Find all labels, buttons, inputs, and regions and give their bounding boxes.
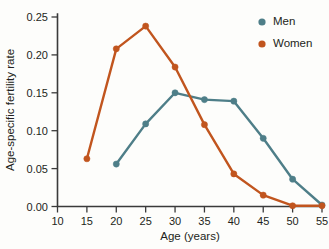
data-point-women-20 xyxy=(113,46,119,52)
data-point-men-45 xyxy=(260,135,266,141)
data-point-women-45 xyxy=(260,192,266,198)
legend-marker-women xyxy=(258,40,265,47)
data-point-women-15 xyxy=(84,156,90,162)
y-axis-ticks: 0.000.050.100.150.200.25 xyxy=(27,11,58,213)
y-axis-title: Age-specific fertility rate xyxy=(4,49,16,171)
data-point-men-25 xyxy=(143,121,149,127)
x-tick-label: 15 xyxy=(81,215,93,227)
y-tick-label: 0.20 xyxy=(27,49,48,61)
data-point-women-25 xyxy=(143,23,149,29)
legend-label-men: Men xyxy=(273,15,295,27)
y-tick-label: 0.10 xyxy=(27,125,48,137)
chart-canvas: 0.000.050.100.150.200.25 101520253035404… xyxy=(0,0,329,249)
data-point-men-35 xyxy=(201,97,207,103)
x-tick-label: 25 xyxy=(140,215,152,227)
fertility-rate-chart-figure: 0.000.050.100.150.200.25 101520253035404… xyxy=(0,0,329,249)
x-axis-title: Age (years) xyxy=(160,230,220,242)
data-point-women-50 xyxy=(290,203,296,209)
x-tick-label: 40 xyxy=(228,215,240,227)
data-point-women-55 xyxy=(319,203,325,209)
x-tick-label: 45 xyxy=(257,215,269,227)
data-point-men-50 xyxy=(290,176,296,182)
x-axis-ticks: 10152025303540455055 xyxy=(51,207,328,228)
x-tick-label: 55 xyxy=(316,215,328,227)
data-point-women-40 xyxy=(231,171,237,177)
y-tick-label: 0.00 xyxy=(27,201,48,213)
data-point-women-30 xyxy=(172,64,178,70)
data-point-men-20 xyxy=(113,161,119,167)
y-tick-label: 0.25 xyxy=(27,11,48,23)
x-tick-label: 35 xyxy=(198,215,210,227)
legend-marker-men xyxy=(258,18,265,25)
x-tick-label: 10 xyxy=(51,215,63,227)
legend-label-women: Women xyxy=(273,37,312,49)
x-tick-label: 50 xyxy=(286,215,298,227)
x-tick-label: 20 xyxy=(110,215,122,227)
y-tick-label: 0.05 xyxy=(27,163,48,175)
data-point-men-40 xyxy=(231,98,237,104)
y-tick-label: 0.15 xyxy=(27,87,48,99)
x-tick-label: 30 xyxy=(169,215,181,227)
data-point-women-35 xyxy=(201,122,207,128)
data-point-men-30 xyxy=(172,90,178,96)
